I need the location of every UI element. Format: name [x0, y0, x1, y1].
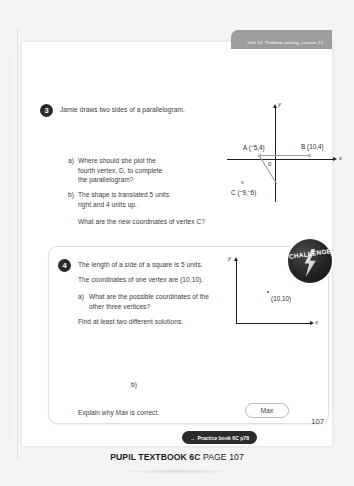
- y-axis-line: [236, 261, 237, 323]
- point-c-marker: [241, 181, 244, 184]
- practice-book-label: Practice book 6C p78: [198, 435, 250, 441]
- name-pill-max: Max: [245, 403, 289, 418]
- question-4-find-solutions-text: Find at least two different solutions.: [78, 317, 238, 327]
- page-spine-line-outer: [9, 52, 10, 442]
- question-3-part-b-text: The shape is translated 5 units right an…: [78, 190, 174, 209]
- question-4-panel: 4 The length of a side of a square is 5 …: [48, 246, 329, 424]
- question-3-coordinate-grid: y x 0 A (−5,4) B (10,4) C (−9,−6): [227, 102, 354, 202]
- origin-label: 0: [268, 160, 271, 167]
- x-axis-label: x: [339, 155, 342, 161]
- scanned-page-container: Unit 14: Problem solving, Lesson 12 3 Ja…: [0, 0, 354, 486]
- caption-shadow: [116, 469, 240, 474]
- question-4-part-b-label: b): [131, 380, 137, 390]
- practice-book-reference-tab: → Practice book 6C p78: [182, 431, 257, 444]
- x-axis-line: [227, 159, 335, 160]
- arrow-right-icon: →: [190, 435, 195, 441]
- point-a-label: A (−5,4): [243, 143, 265, 151]
- question-3-part-a-text: Where should she plot the fourth vertex,…: [78, 156, 168, 185]
- question-4-part-a-label: a): [78, 292, 84, 302]
- page-spine-line: [17, 28, 18, 460]
- page-number: 107: [311, 417, 324, 426]
- point-c-label: C (−9,−6): [231, 188, 256, 196]
- question-3-part-c-text: What are the new coordinates of vertex C…: [78, 217, 208, 227]
- unit-lesson-tab: Unit 14: Problem solving, Lesson 12: [231, 30, 332, 49]
- name-pill-label: Max: [261, 407, 273, 414]
- caption-page-ref: PAGE 107: [201, 452, 244, 462]
- point-b-label: B (10,4): [301, 143, 324, 150]
- x-axis-line: [236, 323, 312, 324]
- point-10-10-marker: [267, 291, 269, 293]
- question-3-part-b-label: b): [68, 190, 74, 200]
- challenge-badge: CHALLENGE: [288, 239, 332, 283]
- textbook-page: Unit 14: Problem solving, Lesson 12 3 Ja…: [22, 42, 332, 446]
- y-axis-label: y: [278, 101, 281, 107]
- question-3-part-a-label: a): [68, 156, 74, 166]
- y-axis-arrow-icon: [234, 257, 238, 261]
- point-10-10-label: (10,10): [271, 295, 291, 302]
- unit-lesson-label: Unit 14: Problem solving, Lesson 12: [247, 35, 323, 45]
- caption-book-title: PUPIL TEXTBOOK 6C: [110, 452, 200, 462]
- question-4-part-a-text: What are the possible coordinates of the…: [89, 292, 219, 311]
- y-axis-label: y: [228, 255, 231, 261]
- caption-bar: PUPIL TEXTBOOK 6C PAGE 107: [0, 452, 354, 462]
- x-axis-arrow-icon: [333, 157, 337, 161]
- x-axis-arrow-icon: [310, 321, 314, 325]
- segment-a-to-b: [260, 155, 310, 156]
- question-4-explain-text: Explain why Max is correct.: [78, 408, 218, 418]
- point-b-marker: [308, 154, 311, 157]
- x-axis-label: x: [315, 319, 318, 325]
- question-4-number: 4: [58, 259, 71, 272]
- question-3-stem: Jamie draws two sides of a parallelogram…: [60, 105, 240, 115]
- y-axis-arrow-icon: [273, 104, 277, 108]
- question-4-stem-line-1: The length of a side of a square is 5 un…: [78, 260, 248, 270]
- question-3-number: 3: [40, 104, 53, 117]
